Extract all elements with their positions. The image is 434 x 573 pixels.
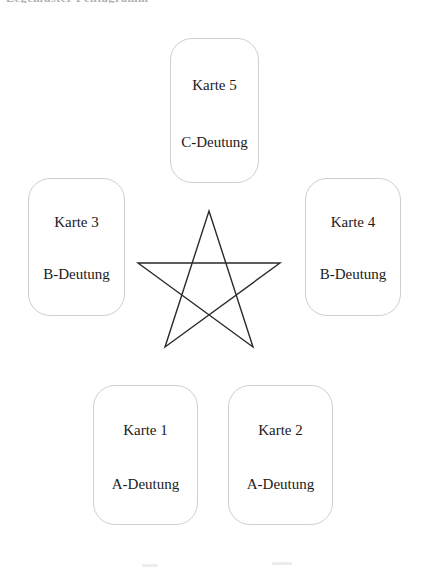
card-5-title: Karte 5 [192,77,237,94]
card-2-title: Karte 2 [258,422,303,439]
card-2[interactable]: Karte 2 A-Deutung [228,385,333,525]
card-2-meaning: A-Deutung [247,476,315,493]
card-3-meaning: B-Deutung [43,266,110,283]
card-3[interactable]: Karte 3 B-Deutung [28,178,125,316]
card-1-meaning: A-Deutung [112,476,180,493]
pentagram-star-path [138,211,280,347]
page-heading-fragment: Legemuster Pentagramm [6,0,196,3]
card-3-title: Karte 3 [54,214,99,231]
scan-artifact-right [272,562,292,565]
pentagram-icon [128,205,290,365]
card-4-meaning: B-Deutung [320,266,387,283]
card-4-title: Karte 4 [331,214,376,231]
scan-artifact-left [142,564,158,567]
card-1-title: Karte 1 [123,422,168,439]
card-1[interactable]: Karte 1 A-Deutung [93,385,198,525]
card-5-meaning: C-Deutung [181,134,248,151]
document-page: Legemuster Pentagramm Karte 5 C-Deutung … [0,0,434,573]
card-4[interactable]: Karte 4 B-Deutung [305,178,401,316]
card-5[interactable]: Karte 5 C-Deutung [170,38,259,183]
